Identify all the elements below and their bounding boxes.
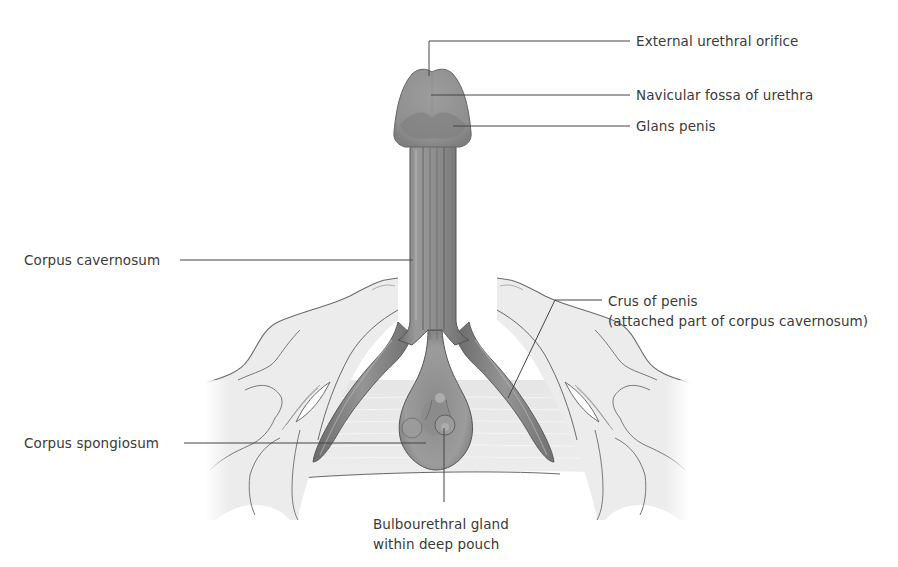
- label-corpus-cavernosum: Corpus cavernosum: [24, 251, 160, 269]
- glans: [394, 69, 471, 147]
- label-external-urethral-orifice: External urethral orifice: [636, 32, 798, 50]
- label-crus-of-penis: Crus of penis (attached part of corpus c…: [608, 291, 868, 331]
- leader-external-urethral-orifice: [429, 41, 630, 76]
- label-navicular-fossa: Navicular fossa of urethra: [636, 86, 813, 104]
- label-corpus-spongiosum: Corpus spongiosum: [24, 434, 159, 452]
- penile-shaft: [398, 145, 469, 345]
- bulb-of-penis: [399, 330, 472, 470]
- label-bulbourethral-gland: Bulbourethral gland within deep pouch: [373, 514, 509, 554]
- label-glans-penis: Glans penis: [636, 117, 716, 135]
